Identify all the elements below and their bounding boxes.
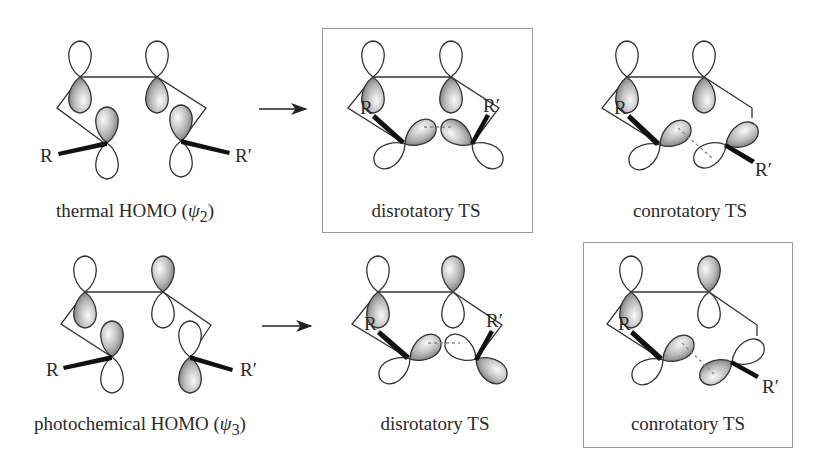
substituent-r-prime: R′ <box>240 360 257 379</box>
orbital-diagram <box>0 0 829 466</box>
substituent-r-prime: R′ <box>235 146 252 165</box>
substituent-r-prime: R′ <box>762 377 779 396</box>
caption-thermal-conrotatory: conrotatory TS <box>633 200 747 222</box>
thermal-homo-structure <box>57 41 230 179</box>
substituent-r: R <box>614 98 627 117</box>
substituent-r: R <box>364 314 377 333</box>
substituent-r: R <box>40 146 53 165</box>
substituent-r: R <box>46 360 59 379</box>
caption-photochemical-conrotatory: conrotatory TS <box>631 413 745 435</box>
caption-photochemical-homo: photochemical HOMO (ψ3) <box>34 413 246 439</box>
photochemical-conrotatory-ts <box>607 256 769 390</box>
substituent-r: R <box>360 98 373 117</box>
substituent-r-prime: R′ <box>486 311 503 330</box>
caption-photochemical-disrotatory: disrotatory TS <box>381 413 490 435</box>
caption-thermal-disrotatory: disrotatory TS <box>372 200 481 222</box>
substituent-r: R <box>618 314 631 333</box>
substituent-r-prime: R′ <box>755 160 772 179</box>
photochemical-homo-structure <box>61 256 233 393</box>
substituent-r-prime: R′ <box>483 96 500 115</box>
caption-thermal-homo: thermal HOMO (ψ2) <box>56 200 214 226</box>
